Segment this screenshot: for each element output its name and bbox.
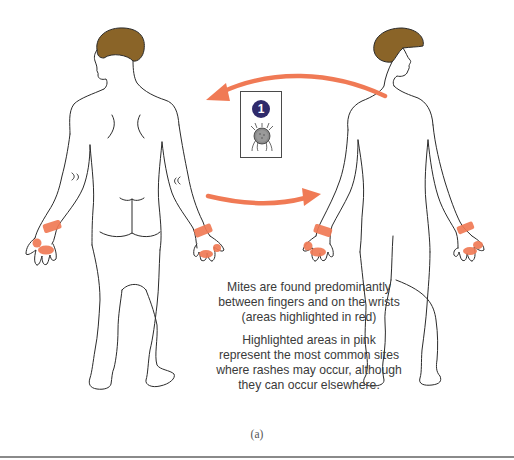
hair-front-view [374, 28, 424, 62]
caption-red-line: (areas highlighted in red) [214, 310, 404, 325]
caption-pink-line: Highlighted areas in pink [214, 333, 404, 348]
caption-pink-line: where rashes may occur, although [214, 363, 404, 378]
caption-pink-areas: Highlighted areas in pink represent the … [214, 333, 404, 393]
arrow-left-to-right [208, 188, 321, 206]
subfigure-label: (a) [0, 428, 514, 440]
caption-red-line: Mites are found predominantly [214, 280, 404, 295]
bottom-divider [0, 456, 514, 458]
scabies-diagram: 1 Mites are found predominantly between … [0, 0, 514, 460]
mite-panel: 1 [240, 91, 282, 158]
caption-red-areas: Mites are found predominantly between fi… [214, 280, 404, 325]
caption-pink-line: represent the most common sites [214, 348, 404, 363]
caption-pink-line: they can occur elsewhere. [214, 378, 404, 393]
back-view-figure [26, 28, 224, 389]
caption-red-line: between fingers and on the wrists [214, 295, 404, 310]
number-badge-icon: 1 [252, 100, 270, 118]
back-view-highlights [33, 219, 222, 258]
arrow-right-to-left [206, 76, 385, 101]
mite-icon [249, 122, 275, 152]
hair-back-view [97, 28, 145, 61]
